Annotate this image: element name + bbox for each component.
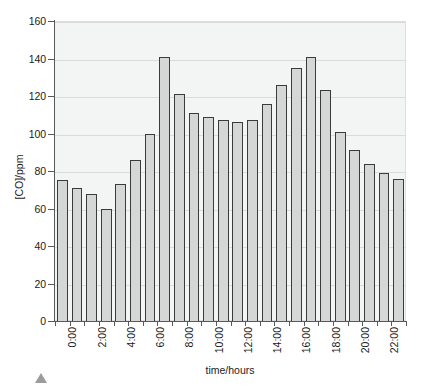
bar [101,209,112,322]
bar [189,113,200,321]
x-axis-tick-labels: 0:002:004:006:008:0010:0012:0014:0016:00… [55,327,406,363]
bar [393,179,404,322]
y-axis-tick-label: 20 [2,278,46,290]
bar [115,184,126,321]
x-axis-tick [377,322,378,326]
x-axis-tick [114,322,115,326]
bar [232,122,243,321]
bar-series [55,21,406,321]
y-axis-tick-label: 40 [2,240,46,252]
x-axis-tick [260,322,261,326]
bar [349,150,360,321]
bar [130,160,141,321]
bar [57,180,68,321]
bar [335,132,346,321]
x-axis-tick [70,322,71,326]
y-axis-tick-label: 140 [2,53,46,65]
x-axis-tick-label: 20:00 [359,327,371,353]
y-axis-tick-label: 120 [2,90,46,102]
bar [72,188,83,321]
x-axis-tick [333,322,334,326]
x-axis-tick-label: 4:00 [125,327,137,347]
bar [291,68,302,321]
y-axis-tick-label: 160 [2,15,46,27]
y-axis-tick [48,246,54,247]
bar [364,164,375,322]
y-axis-tick [48,171,54,172]
x-axis-tick-label: 12:00 [242,327,254,353]
x-axis-tick-label: 16:00 [300,327,312,353]
x-axis-tick [143,322,144,326]
x-axis-tick [216,322,217,326]
x-axis-tick-label: 22:00 [388,327,400,353]
x-axis-tick [318,322,319,326]
bar [306,57,317,321]
y-axis-tick [48,284,54,285]
x-axis-tick-label: 8:00 [183,327,195,347]
x-axis-tick-label: 0:00 [66,327,78,347]
co-concentration-bar-chart: 020406080100120140160 [CO]/ppm 0:002:004… [0,0,426,386]
bar [86,194,97,322]
x-axis-tick [187,322,188,326]
bar [320,90,331,321]
x-axis-tick [304,322,305,326]
x-axis-tick-label: 18:00 [330,327,342,353]
y-axis-tick [48,21,54,22]
y-axis-tick [48,134,54,135]
x-axis-tick [84,322,85,326]
x-axis-tick [348,322,349,326]
y-axis-title: [CO]/ppm [13,122,25,232]
x-axis-tick [406,322,407,326]
bar [174,94,185,321]
bar [218,120,229,321]
x-axis-tick [231,322,232,326]
x-axis-tick [362,322,363,326]
bar [276,85,287,321]
cursor-triangle-icon [35,373,47,383]
x-axis-tick-label: 10:00 [213,327,225,353]
bar [379,173,390,321]
x-axis-tick [55,322,56,326]
y-axis-tick [48,59,54,60]
bar [247,120,258,321]
y-axis-tick [48,321,54,322]
x-axis-tick [391,322,392,326]
x-axis-tick [201,322,202,326]
x-axis-tick [274,322,275,326]
x-axis-tick [289,322,290,326]
y-axis-tick [48,209,54,210]
x-axis-title: time/hours [54,364,406,376]
x-axis-tick [157,322,158,326]
x-axis-tick-label: 2:00 [96,327,108,347]
x-axis-tick [128,322,129,326]
bar [159,57,170,321]
bar [145,134,156,322]
x-axis-tick [99,322,100,326]
x-axis-tick [172,322,173,326]
x-axis-tick-label: 6:00 [154,327,166,347]
bar [203,117,214,321]
x-axis-tick [245,322,246,326]
y-axis-tick [48,96,54,97]
y-axis-tick-label: 0 [2,315,46,327]
x-axis-tick-label: 14:00 [271,327,283,353]
bar [262,104,273,322]
